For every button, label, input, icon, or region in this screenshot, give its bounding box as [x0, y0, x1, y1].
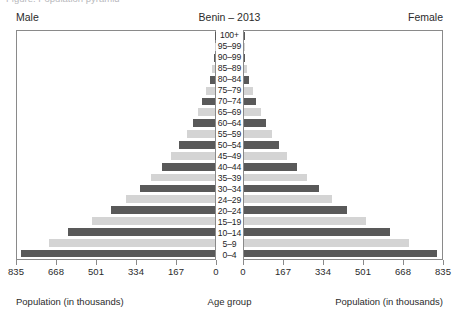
bar-row	[244, 74, 442, 85]
age-group-label: 20–24	[216, 205, 243, 216]
axis-tick	[403, 260, 404, 265]
bar-row	[244, 42, 442, 53]
bar-male-5_9	[49, 239, 215, 247]
male-bar-rows	[17, 31, 215, 259]
bar-row	[244, 237, 442, 248]
bar-male-85_89	[212, 65, 215, 73]
bar-row	[17, 74, 215, 85]
bar-row	[244, 150, 442, 161]
age-group-label: 24–29	[216, 194, 243, 205]
bar-row	[244, 96, 442, 107]
bar-male-90_99	[214, 54, 215, 62]
axis-tick-label: 334	[128, 266, 144, 277]
female-plot-panel	[243, 30, 443, 260]
bar-female-40_44	[244, 163, 297, 171]
age-group-label: 35–39	[216, 172, 243, 183]
axis-tick-label: 668	[395, 266, 411, 277]
female-axis-tick-labels: 0167334501668835	[243, 266, 443, 280]
age-group-label: 75–79	[216, 85, 243, 96]
bar-female-65_69	[244, 108, 261, 116]
bar-female-30_34	[244, 185, 319, 193]
bar-male-35_39	[151, 174, 215, 182]
bar-female-20_24	[244, 206, 347, 214]
bar-row	[244, 216, 442, 227]
age-group-label: 0–4	[216, 249, 243, 260]
bar-row	[244, 226, 442, 237]
bar-row	[244, 129, 442, 140]
bar-row	[17, 216, 215, 227]
bar-male-15_19	[92, 217, 215, 225]
female-bar-rows	[244, 31, 442, 259]
bar-row	[17, 85, 215, 96]
age-group-label: 80–84	[216, 74, 243, 85]
bar-female-35_39	[244, 174, 307, 182]
age-group-label: 30–34	[216, 183, 243, 194]
bar-row	[244, 31, 442, 42]
age-group-label: 85–89	[216, 63, 243, 74]
bar-male-30_34	[140, 185, 215, 193]
bar-male-55_59	[187, 130, 215, 138]
bar-row	[17, 237, 215, 248]
female-axis-ticks	[243, 260, 443, 265]
axis-tick-label: 167	[168, 266, 184, 277]
bar-row	[244, 140, 442, 151]
bar-row	[244, 85, 442, 96]
axis-captions: Population (in thousands) Age group Popu…	[0, 296, 459, 312]
age-group-label: 60–64	[216, 118, 243, 129]
axis-tick	[176, 260, 177, 265]
bar-row	[17, 194, 215, 205]
bar-row	[244, 194, 442, 205]
axis-tick-label: 835	[8, 266, 24, 277]
bar-male-0_4	[21, 250, 215, 258]
axis-tick	[443, 260, 444, 265]
bar-male-65_69	[198, 108, 215, 116]
axis-tick-label: 0	[240, 266, 245, 277]
axis-tick-label: 501	[88, 266, 104, 277]
bar-row	[17, 150, 215, 161]
chart-title: Benin – 2013	[0, 11, 459, 23]
bar-female-0_4	[244, 250, 437, 258]
bar-row	[244, 118, 442, 129]
age-group-label: 65–69	[216, 107, 243, 118]
male-axis-ticks	[16, 260, 216, 265]
axis-tick-label: 167	[275, 266, 291, 277]
age-group-label: 100+	[216, 30, 243, 41]
female-side-label: Female	[408, 11, 443, 23]
cropped-caption-text: Figure: Population pyramid	[0, 0, 459, 4]
male-plot-panel	[16, 30, 216, 260]
axis-tick	[96, 260, 97, 265]
bar-row	[244, 64, 442, 75]
bar-row	[17, 107, 215, 118]
cropped-caption-sliver: Figure: Population pyramid	[0, 0, 459, 7]
bar-male-60_64	[193, 119, 215, 127]
bar-male-70_74	[202, 98, 215, 106]
chart-header: Male Benin – 2013 Female	[0, 11, 459, 27]
bar-male-20_24	[111, 206, 215, 214]
axis-tick	[136, 260, 137, 265]
bar-female-5_9	[244, 239, 409, 247]
axis-tick-label: 501	[355, 266, 371, 277]
bar-female-85_89	[244, 65, 247, 73]
bar-male-24_29	[126, 195, 215, 203]
axis-tick	[323, 260, 324, 265]
bar-row	[17, 129, 215, 140]
age-group-label: 70–74	[216, 96, 243, 107]
bar-female-70_74	[244, 98, 256, 106]
bar-male-10_14	[68, 228, 215, 236]
bar-row	[17, 53, 215, 64]
axis-tick	[56, 260, 57, 265]
age-group-label: 40–44	[216, 161, 243, 172]
bar-row	[244, 172, 442, 183]
bar-row	[17, 42, 215, 53]
axis-tick	[363, 260, 364, 265]
bar-male-45_49	[171, 152, 215, 160]
age-group-label: 15–19	[216, 216, 243, 227]
bar-row	[244, 161, 442, 172]
bar-male-75_79	[206, 87, 215, 95]
axis-tick-label: 835	[435, 266, 451, 277]
bar-row	[17, 31, 215, 42]
age-group-label: 10–14	[216, 227, 243, 238]
bar-row	[244, 205, 442, 216]
bar-row	[17, 118, 215, 129]
bar-row	[17, 96, 215, 107]
